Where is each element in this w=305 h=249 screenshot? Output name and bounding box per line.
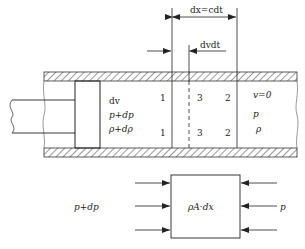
- pipe-diagram: dx=cdt dvdt dv p+dp ρ+dρ 1 3 2 1 3 2 v=0…: [0, 0, 305, 249]
- pipe-right-break: [296, 81, 298, 148]
- right-force-label: p: [280, 202, 286, 212]
- right-force-arrows: [241, 183, 277, 230]
- marker-1-top: 1: [160, 93, 166, 103]
- left-density: ρ+dρ: [108, 124, 134, 134]
- pipe-top-wall: [44, 72, 297, 81]
- marker-2-top: 2: [225, 93, 231, 103]
- dx-label: dx=cdt: [190, 5, 223, 15]
- right-pressure: p: [253, 109, 259, 119]
- left-force-label: p+dp: [74, 202, 99, 212]
- pipe-left-break: [43, 81, 45, 148]
- marker-2-bottom: 2: [225, 128, 231, 138]
- fluid-element-label: ρA·dx: [187, 202, 214, 212]
- left-force-arrows: [135, 183, 170, 230]
- right-density: ρ: [255, 124, 262, 134]
- left-pressure: p+dp: [109, 110, 134, 120]
- dvdt-label: dvdt: [200, 40, 221, 50]
- marker-3-top: 3: [197, 93, 203, 103]
- left-velocity: dv: [109, 96, 121, 106]
- piston-rod: [10, 100, 75, 133]
- marker-3-bottom: 3: [197, 128, 203, 138]
- right-velocity: v=0: [253, 90, 272, 100]
- pipe-bottom-wall: [44, 148, 297, 157]
- piston: [75, 81, 100, 148]
- marker-1-bottom: 1: [160, 128, 166, 138]
